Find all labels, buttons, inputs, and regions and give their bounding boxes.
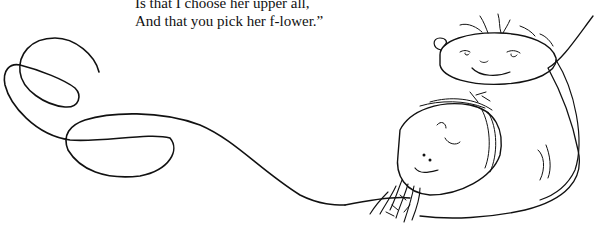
hair-strand-line-icon bbox=[420, 16, 593, 218]
book-page: Is that I choose her upper all, And that… bbox=[0, 0, 599, 237]
flower-tuft-icon bbox=[370, 180, 420, 222]
line-illustration bbox=[0, 0, 599, 237]
swirl-line-icon bbox=[4, 38, 410, 205]
smiling-face-icon bbox=[434, 14, 556, 84]
frowning-face-icon bbox=[397, 92, 501, 195]
